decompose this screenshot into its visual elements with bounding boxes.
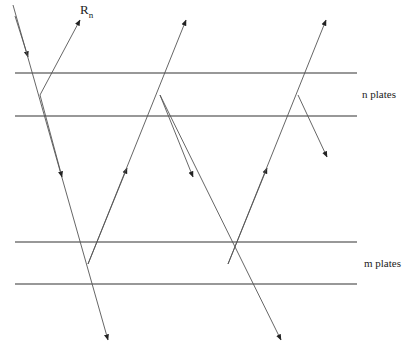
m-plates-boundaries — [15, 242, 357, 284]
reflected-ray-label: Rn — [80, 2, 93, 20]
n-plates-boundaries — [15, 73, 357, 116]
n-plates-label: n plates — [362, 88, 396, 100]
m-plates-label: m plates — [364, 257, 401, 269]
light-rays — [13, 5, 327, 340]
multiple-reflection-diagram — [0, 0, 416, 356]
